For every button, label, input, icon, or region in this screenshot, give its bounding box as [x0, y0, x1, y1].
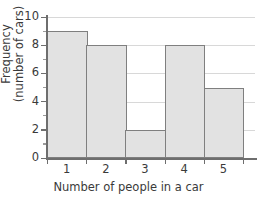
y-axis-tick-label: 8	[15, 39, 39, 51]
x-axis-tick-label: 5	[203, 164, 243, 176]
plot-area	[47, 17, 243, 158]
bar	[165, 45, 206, 158]
y-axis-tick-label: 6	[15, 67, 39, 79]
bar	[125, 130, 166, 158]
y-axis-tick-label: 0	[15, 152, 39, 164]
x-axis-tick-label: 1	[47, 164, 87, 176]
x-axis-title: Number of people in a car	[0, 180, 257, 194]
bar	[86, 45, 127, 158]
x-axis-tick-label: 2	[86, 164, 126, 176]
x-axis-tick-label: 4	[164, 164, 204, 176]
bar	[204, 88, 245, 159]
bar-chart: Frequency (number of cars) 0246810 12345…	[0, 0, 257, 200]
x-axis-line	[46, 158, 257, 160]
y-axis-tick-label: 4	[15, 96, 39, 108]
bar-series	[47, 17, 243, 158]
bar	[47, 31, 88, 158]
y-axis-line	[46, 15, 48, 159]
x-axis-tick-label: 3	[125, 164, 165, 176]
y-axis-tick-label: 2	[15, 124, 39, 136]
y-axis-tick-label: 10	[15, 11, 39, 23]
